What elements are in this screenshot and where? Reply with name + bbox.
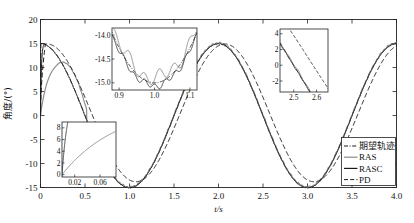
x-tick-label: 0.5 xyxy=(79,191,91,201)
x-tick-label: 1.0 xyxy=(124,191,136,201)
y-tick-label: 5 xyxy=(33,87,38,97)
inset-x-tick-label: 0.02 xyxy=(68,178,81,187)
inset-x-tick-label: 2.6 xyxy=(312,93,322,102)
y-tick-label: 10 xyxy=(29,63,39,73)
legend-label-1: RAS xyxy=(359,152,377,162)
inset-y-tick-label: 2 xyxy=(57,159,61,168)
inset-y-tick-label: 4 xyxy=(57,147,61,156)
y-tick-label: -10 xyxy=(26,159,38,169)
inset-x-tick-label: 2.5 xyxy=(289,93,299,102)
y-tick-label: 15 xyxy=(29,39,39,49)
inset-x-tick-label: 1.1 xyxy=(185,91,195,100)
y-tick-label: -15 xyxy=(26,183,38,193)
inset-y-tick-label: 0 xyxy=(57,170,61,179)
legend-label-0: 期望轨迹 xyxy=(359,140,395,151)
inset-y-tick-label: -15.0 xyxy=(95,78,111,87)
inset-x-tick-label: 1.0 xyxy=(150,91,160,100)
inset-y-tick-label: 6 xyxy=(57,135,61,144)
x-tick-label: 4.0 xyxy=(391,191,403,201)
y-tick-label: 0 xyxy=(33,111,38,121)
inset-y-tick-label: 8 xyxy=(57,123,61,132)
legend-label-2: RASC xyxy=(359,164,383,174)
inset-border xyxy=(62,122,116,177)
x-tick-label: 3.0 xyxy=(302,191,314,201)
x-tick-label: 1.5 xyxy=(168,191,180,201)
inset-y-tick-label: -14.0 xyxy=(95,31,111,40)
legend-label-3: PD xyxy=(359,175,371,185)
chart-figure: 00.51.01.52.02.53.03.54.0t/s20151050-5-1… xyxy=(0,0,414,223)
x-tick-label: 3.5 xyxy=(346,191,358,201)
inset-y-tick-label: -14.5 xyxy=(95,55,111,64)
x-tick-label: 2.5 xyxy=(257,191,269,201)
inset-y-tick-label: 4 xyxy=(275,29,279,38)
legend: 期望轨迹RASRASCPD xyxy=(342,138,396,186)
y-tick-label: -5 xyxy=(30,135,38,145)
x-tick-label: 2.0 xyxy=(213,191,225,201)
y-tick-label: 20 xyxy=(29,15,39,25)
angle-tracking-line-chart: 00.51.01.52.02.53.03.54.0t/s20151050-5-1… xyxy=(0,0,414,223)
x-axis-label: t/s xyxy=(214,204,223,214)
inset-x-tick-label: 0.9 xyxy=(114,91,124,100)
inset-x-tick-label: 0.06 xyxy=(94,178,107,187)
inset-y-tick-label: 2 xyxy=(275,45,279,54)
y-axis-label: 角度/(°) xyxy=(2,87,13,120)
inset-y-tick-label: -2 xyxy=(272,77,278,86)
x-tick-label: 0 xyxy=(38,191,43,201)
inset-y-tick-label: 0 xyxy=(275,61,279,70)
